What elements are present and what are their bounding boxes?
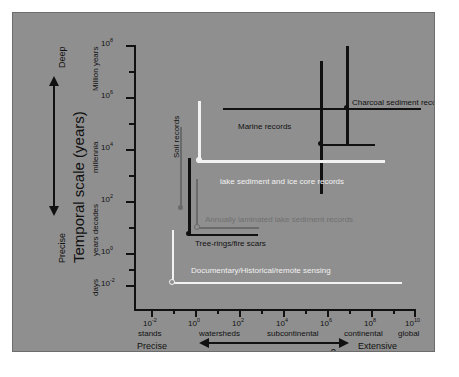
x-direction-label-extensive: Extensive	[358, 342, 397, 351]
x-tick-major	[151, 309, 153, 317]
series-annually-laminated-horizontal-range	[196, 227, 259, 229]
x-direction-arrow-head-right	[339, 338, 349, 348]
y-tick-exponent: 8	[110, 37, 113, 43]
y-tick-major	[126, 253, 134, 255]
x-tick-minor	[217, 309, 219, 314]
y-tick-minor	[129, 175, 134, 177]
x-tick-label: 108	[364, 320, 376, 328]
y-tick-major	[126, 285, 134, 287]
series-marine-label: Marine records	[238, 123, 291, 131]
series-documentary-label: Documentary/Historical/remote sensing	[191, 267, 331, 275]
series-tree-rings-marker	[186, 231, 191, 236]
y-direction-arrow-head-down	[49, 206, 59, 216]
y-tick-label: 10-2	[101, 280, 115, 288]
x-axis-title: Spacial scale (km2)	[213, 349, 341, 352]
series-marine-vertical-range	[320, 61, 323, 194]
x-tick-exponent: 6	[329, 317, 332, 323]
x-tick-minor	[393, 309, 395, 314]
y-category-label-years-decades: years decades	[92, 204, 100, 256]
series-charcoal-vertical-range	[346, 46, 349, 145]
y-tick-major	[126, 201, 134, 203]
x-tick-major	[371, 309, 373, 317]
y-tick-exponent: 0	[110, 245, 113, 251]
y-category-label-million-years: Million years	[92, 47, 100, 91]
y-tick-major	[126, 149, 134, 151]
x-tick-major	[414, 309, 416, 317]
x-tick-major	[283, 309, 285, 317]
series-annually-laminated-marker	[194, 224, 200, 230]
y-tick-label: 104	[101, 144, 113, 152]
x-tick-minor	[261, 309, 263, 314]
x-category-label-stands: stands	[138, 330, 162, 338]
x-tick-exponent: -2	[152, 317, 157, 323]
y-tick-label: 108	[101, 40, 113, 48]
y-tick-major	[126, 97, 134, 99]
series-lake-sediment-horizontal-range	[198, 160, 385, 163]
series-tree-rings-vertical-range	[188, 158, 191, 236]
series-documentary-marker	[169, 279, 175, 285]
series-documentary-horizontal-range	[172, 282, 402, 284]
x-category-label-continental: continental	[344, 330, 383, 338]
x-tick-minor	[349, 309, 351, 314]
y-tick-minor	[129, 269, 134, 271]
y-tick-exponent: 2	[110, 193, 113, 199]
series-tree-rings-label: Tree-rings/fire scars	[195, 240, 266, 248]
x-category-label-watersheds: watersheds	[199, 330, 240, 338]
x-tick-label: 104	[276, 320, 288, 328]
x-tick-label: 100	[188, 320, 200, 328]
y-tick-exponent: -2	[110, 277, 115, 283]
y-tick-minor	[129, 227, 134, 229]
y-tick-label: 106	[101, 92, 113, 100]
y-axis-title: Temporal scale (years)	[71, 111, 86, 263]
y-direction-arrow-head-up	[49, 76, 59, 86]
y-tick-minor	[129, 123, 134, 125]
series-marine-horizontal-range	[320, 144, 375, 146]
x-axis-title-tail: )	[336, 349, 341, 352]
x-tick-exponent: 4	[285, 317, 288, 323]
figure-panel: 108 106 104 102 100 10-2 Million years m…	[12, 12, 435, 352]
x-axis-title-base: Spacial scale (km	[213, 349, 331, 352]
series-marine-marker	[318, 141, 323, 146]
x-tick-minor	[173, 309, 175, 314]
x-tick-major	[195, 309, 197, 317]
x-tick-major	[239, 309, 241, 317]
x-tick-exponent: 2	[241, 317, 244, 323]
y-category-label-millennia: millennia	[92, 141, 100, 173]
x-tick-label: 10-2	[143, 320, 157, 328]
x-tick-exponent: 0	[197, 317, 200, 323]
y-tick-major	[126, 45, 134, 47]
series-lake-sediment-label: lake sediment and ice core records	[220, 178, 344, 186]
y-direction-arrow-shaft	[53, 85, 55, 207]
series-charcoal-marker	[344, 105, 349, 110]
x-category-label-global: global	[398, 330, 419, 338]
series-soil-records-marker	[178, 205, 183, 210]
x-direction-arrow-shaft	[208, 342, 339, 344]
x-tick-minor	[305, 309, 307, 314]
x-tick-label: 102	[232, 320, 244, 328]
series-lake-sediment-marker	[196, 157, 202, 163]
y-direction-label-precise: Precise	[58, 233, 67, 263]
x-direction-arrow-head-left	[199, 338, 209, 348]
y-tick-exponent: 6	[110, 89, 113, 95]
x-direction-label-precise: Precise	[137, 342, 167, 351]
x-axis-line	[134, 309, 416, 311]
y-tick-label: 100	[101, 248, 113, 256]
y-tick-exponent: 4	[110, 141, 113, 147]
y-tick-label: 102	[101, 196, 113, 204]
y-tick-minor	[129, 71, 134, 73]
x-tick-label: 106	[320, 320, 332, 328]
series-annually-laminated-label: Annually laminated lake sediment records	[205, 216, 353, 224]
y-direction-label-deep: Deep	[58, 46, 67, 68]
series-soil-records-label: Soil records	[173, 116, 181, 158]
y-category-label-days: days	[92, 279, 100, 296]
series-lake-sediment-vertical-range	[198, 101, 201, 163]
x-tick-label: 1010	[405, 320, 420, 328]
x-category-label-subcontinental: subcontinental	[267, 330, 319, 338]
series-charcoal-label: Charcoal sediment records	[352, 99, 435, 107]
x-tick-major	[327, 309, 329, 317]
series-tree-rings-horizontal-range	[188, 234, 258, 236]
x-tick-exponent: 8	[373, 317, 376, 323]
series-documentary-vertical-range	[172, 230, 174, 283]
y-axis-line	[134, 45, 136, 309]
x-tick-exponent: 10	[414, 317, 420, 323]
